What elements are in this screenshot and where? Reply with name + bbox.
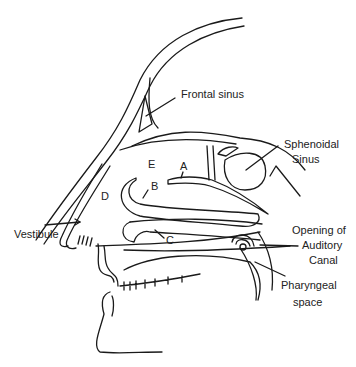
inferior-concha (123, 222, 260, 242)
upper-teeth (120, 274, 200, 290)
label-auditory-line1: Opening of (292, 224, 346, 237)
sphenoidal-sinus-shape (224, 153, 265, 190)
pharynx-wall-2 (240, 248, 256, 300)
label-c-leader (155, 230, 164, 238)
frontal-sinus-leader (146, 98, 175, 116)
letter-e: E (148, 158, 155, 170)
cranial-floor-inner (120, 139, 236, 150)
label-pharyngeal-line2: space (293, 296, 322, 309)
label-vestibule: Vestibule (14, 228, 59, 241)
letter-d: D (101, 190, 109, 202)
sphenoid-strut (213, 146, 215, 180)
letter-a: A (180, 160, 187, 172)
tongue (124, 256, 260, 300)
nasal-cavity-diagram (0, 0, 356, 367)
label-auditory-line3: Canal (309, 254, 338, 267)
letter-b: B (151, 180, 158, 192)
label-frontal-sinus: Frontal sinus (181, 88, 244, 101)
label-sphenoidal-sinus-line2: Sinus (292, 153, 320, 166)
lower-jaw (97, 292, 162, 353)
cranial-floor (132, 132, 305, 170)
sphenoid-strut-2 (207, 146, 209, 180)
chin-line (112, 296, 114, 316)
letter-c: C (166, 234, 174, 246)
upper-lip-inner (104, 246, 118, 286)
nasal-bridge-2 (66, 166, 110, 249)
vestibule-hairs (78, 236, 92, 246)
sphenoidal-leader (246, 146, 278, 170)
nasal-bridge (60, 164, 102, 247)
pharyngeal-leader (255, 262, 285, 276)
label-sphenoidal-sinus-line1: Sphenoidal (284, 138, 339, 151)
label-auditory-line2: Auditory (302, 239, 342, 252)
clivus (270, 166, 300, 196)
palate-lower (124, 246, 290, 251)
label-b-leader (143, 190, 148, 198)
label-pharyngeal-line1: Pharyngeal (281, 279, 337, 292)
